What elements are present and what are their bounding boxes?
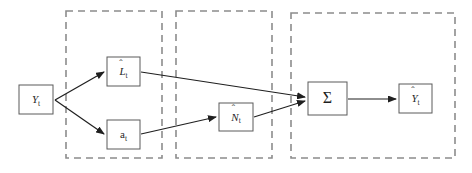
edge-yt-to-lt <box>55 72 104 100</box>
diagram-canvas: YtLtˆatNtˆΣYtˆ <box>0 0 472 173</box>
hybrid-model-diagram: YtLtˆatNtˆΣYtˆ <box>0 0 472 173</box>
nodes-layer: YtLtˆatNtˆΣYtˆ <box>19 57 432 149</box>
node-nonlinear-nt[interactable]: Ntˆ <box>219 103 253 131</box>
edge-at-to-nt <box>141 117 216 134</box>
node-summation[interactable]: Σ <box>308 82 347 115</box>
node-label-summation: Σ <box>323 89 332 106</box>
node-output-yhat[interactable]: Ytˆ <box>399 84 432 113</box>
edge-nt-to-sum <box>254 101 305 117</box>
edge-yt-to-at <box>55 100 104 134</box>
node-linear-lt[interactable]: Ltˆ <box>107 57 140 86</box>
edge-lt-to-sum <box>141 72 305 97</box>
node-input-yt[interactable]: Yt <box>19 85 53 114</box>
node-residual-at[interactable]: at <box>107 120 140 149</box>
